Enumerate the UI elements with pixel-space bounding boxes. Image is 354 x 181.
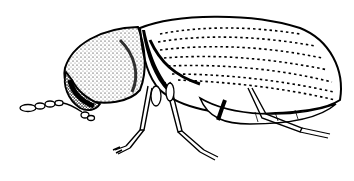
beetle-drawing (0, 0, 354, 181)
beetle-illustration (0, 0, 354, 181)
